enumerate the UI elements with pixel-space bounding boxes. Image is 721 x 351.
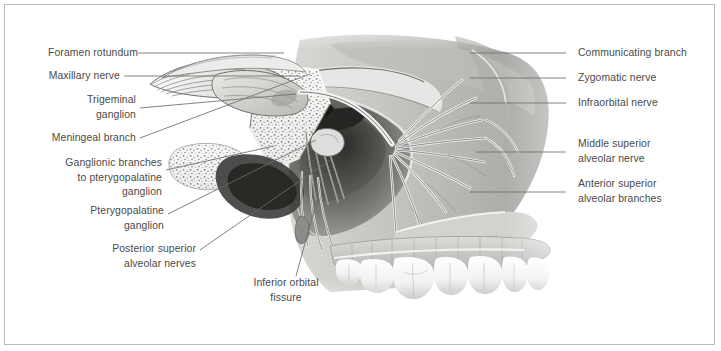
anatomical-plate: Foramen rotundum Maxillary nerve Trigemi… xyxy=(0,0,721,351)
label-infraorbital-nerve: Infraorbital nerve xyxy=(578,96,710,111)
label-meningeal-branch: Meningeal branch xyxy=(10,131,136,146)
label-zygomatic-nerve: Zygomatic nerve xyxy=(578,71,710,86)
label-inferior-orbital-fissure: Inferior orbital fissure xyxy=(228,276,344,305)
label-communicating-branch: Communicating branch xyxy=(578,46,718,61)
label-trigeminal-ganglion: Trigeminal ganglion xyxy=(10,93,136,122)
label-maxillary-nerve: Maxillary nerve xyxy=(10,69,120,84)
label-anterior-superior-alveolar-branches: Anterior superior alveolar branches xyxy=(578,177,714,206)
label-ganglionic-branches: Ganglionic branches to pterygopalatine g… xyxy=(10,156,162,200)
label-middle-superior-alveolar-nerve: Middle superior alveolar nerve xyxy=(578,137,710,166)
label-posterior-superior-alveolar-nerves: Posterior superior alveolar nerves xyxy=(46,242,196,271)
label-pterygopalatine-ganglion: Pterygopalatine ganglion xyxy=(10,204,164,233)
label-foramen-rotundum: Foramen rotundum xyxy=(10,46,138,61)
